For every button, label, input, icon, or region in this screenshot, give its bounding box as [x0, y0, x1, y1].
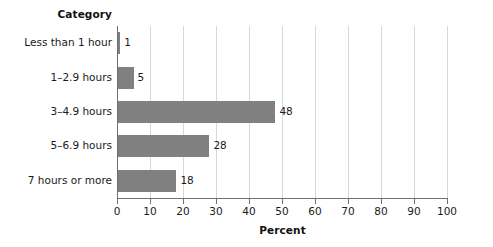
bar — [117, 135, 209, 157]
x-axis-tick — [249, 199, 250, 204]
bar-value-label: 48 — [279, 105, 292, 117]
x-axis-tick — [282, 199, 283, 204]
x-axis-tick — [315, 199, 316, 204]
bar-value-label: 18 — [180, 174, 193, 186]
plot-area: 15482818 — [117, 26, 447, 198]
gridline — [381, 26, 382, 198]
y-axis-category-label: 3–4.9 hours — [0, 105, 112, 117]
bar-value-label: 1 — [124, 36, 131, 48]
bar-value-label: 5 — [138, 71, 145, 83]
y-axis-category-label: 1–2.9 hours — [0, 71, 112, 83]
x-axis-tick — [216, 199, 217, 204]
bar-value-label: 28 — [213, 139, 226, 151]
x-axis-tick — [414, 199, 415, 204]
x-axis-tick — [117, 199, 118, 204]
y-axis-category-label: Less than 1 hour — [0, 36, 112, 48]
x-axis-title: Percent — [117, 224, 448, 236]
bar — [117, 101, 275, 123]
x-axis-tick — [381, 199, 382, 204]
gridline — [414, 26, 415, 198]
x-axis-tick — [183, 199, 184, 204]
x-axis-tick — [348, 199, 349, 204]
gridline — [348, 26, 349, 198]
gridline — [315, 26, 316, 198]
bar — [117, 67, 134, 89]
bar-chart: Category 15482818 Percent 01020304050607… — [0, 0, 493, 247]
x-axis-tick-label: 100 — [427, 205, 467, 217]
y-axis-line — [117, 26, 118, 198]
y-axis-category-label: 7 hours or more — [0, 174, 112, 186]
x-axis-tick — [447, 199, 448, 204]
gridline — [447, 26, 448, 198]
y-axis-title: Category — [0, 8, 118, 20]
bar — [117, 170, 176, 192]
y-axis-category-label: 5–6.9 hours — [0, 139, 112, 151]
x-axis-tick — [150, 199, 151, 204]
